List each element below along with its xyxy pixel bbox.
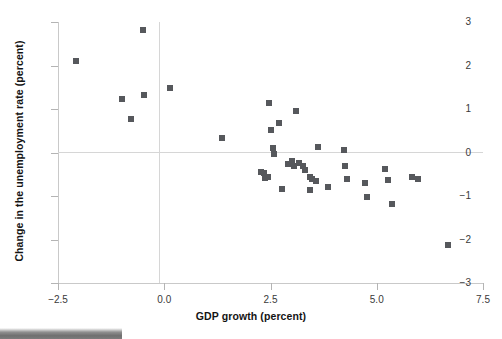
plot-area: 3210−1−2−3−2.50.02.55.07.5	[58, 22, 483, 283]
y-axis-tick-label: 1	[465, 104, 471, 114]
data-point	[271, 151, 277, 157]
y-axis-tick	[51, 22, 58, 23]
data-point	[307, 187, 313, 193]
data-point	[362, 180, 368, 186]
data-point	[276, 120, 282, 126]
data-point	[344, 176, 350, 182]
data-point	[219, 135, 225, 141]
data-point	[302, 167, 308, 173]
data-point	[389, 201, 395, 207]
data-point	[325, 184, 331, 190]
x-axis-tick	[58, 283, 59, 290]
data-point	[385, 177, 391, 183]
y-axis-tick	[51, 109, 58, 110]
x-axis-tick-label: −2.5	[48, 295, 68, 305]
data-point	[364, 194, 370, 200]
y-axis-tick	[51, 66, 58, 67]
y-axis-tick	[51, 196, 58, 197]
data-point	[279, 186, 285, 192]
data-point	[382, 166, 388, 172]
x-axis-tick	[271, 283, 272, 290]
x-zero-reference-line	[159, 22, 160, 283]
data-point	[265, 174, 271, 180]
y-axis-tick-label: −3	[460, 278, 471, 288]
data-point	[409, 174, 415, 180]
data-point	[293, 108, 299, 114]
y-axis-tick-label: 3	[465, 17, 471, 27]
y-axis-tick	[51, 283, 58, 284]
data-point	[140, 27, 146, 33]
x-axis-tick	[164, 283, 165, 290]
x-axis-tick-label: 7.5	[476, 295, 490, 305]
y-axis-tick-label: 0	[465, 148, 471, 158]
x-axis-tick-label: 0.0	[157, 295, 171, 305]
data-point	[128, 116, 134, 122]
data-point	[315, 144, 321, 150]
x-axis-tick-label: 5.0	[370, 295, 384, 305]
scatter-chart-figure: 3210−1−2−3−2.50.02.55.07.5 GDP growth (p…	[0, 0, 502, 339]
data-point	[415, 176, 421, 182]
data-point	[141, 92, 147, 98]
data-point	[341, 147, 347, 153]
y-axis-label: Change in the unemployment rate (percent…	[13, 6, 25, 296]
data-point	[268, 127, 274, 133]
y-axis-tick	[51, 240, 58, 241]
data-point	[119, 96, 125, 102]
y-axis-tick-label: −2	[460, 235, 471, 245]
data-point	[313, 178, 319, 184]
x-axis-tick-label: 2.5	[264, 295, 278, 305]
y-axis-tick-label: −1	[460, 191, 471, 201]
x-axis-label: GDP growth (percent)	[0, 310, 502, 322]
y-axis-tick-label: 2	[465, 61, 471, 71]
x-axis-tick	[483, 283, 484, 290]
data-point	[167, 85, 173, 91]
x-axis-tick	[377, 283, 378, 290]
data-point	[266, 100, 272, 106]
data-point	[445, 242, 451, 248]
y-axis-tick	[51, 153, 58, 154]
data-point	[342, 163, 348, 169]
scan-edge-artifact	[0, 328, 122, 339]
data-point	[73, 58, 79, 64]
